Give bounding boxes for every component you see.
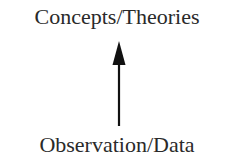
bottom-node-observation-data: Observation/Data	[0, 134, 234, 156]
arrow-head	[113, 41, 126, 65]
